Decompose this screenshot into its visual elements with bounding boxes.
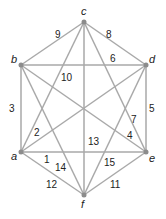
edge-d-f — [84, 65, 146, 195]
vertex-e — [144, 150, 149, 155]
weight-e-f: 11 — [110, 179, 121, 190]
graph-diagram: 1 2 3 4 5 6 7 8 9 10 11 12 13 14 15 a b … — [0, 0, 166, 219]
weight-c-d: 8 — [106, 29, 112, 40]
label-a: a — [11, 150, 17, 162]
edge-b-c — [21, 22, 84, 65]
weight-b-e: 4 — [127, 130, 133, 141]
label-c: c — [81, 5, 87, 17]
vertex-b — [19, 63, 24, 68]
weight-c-a: 10 — [61, 72, 73, 83]
weight-c-f: 13 — [88, 136, 100, 147]
edge-b-f — [21, 65, 84, 195]
weight-b-d: 6 — [110, 53, 116, 64]
edge-c-a — [21, 22, 84, 152]
weight-a-d: 2 — [34, 127, 40, 138]
label-d: d — [149, 53, 156, 65]
vertex-c — [82, 20, 87, 25]
label-e: e — [149, 152, 155, 164]
weight-b-c: 9 — [55, 29, 61, 40]
vertex-d — [144, 63, 149, 68]
edge-c-e — [84, 22, 146, 152]
vertex-a — [19, 150, 24, 155]
label-f: f — [81, 198, 85, 210]
weight-c-e: 7 — [131, 114, 137, 125]
weight-d-f: 15 — [104, 157, 116, 168]
vertex-f — [82, 193, 87, 198]
weight-a-e: 1 — [44, 154, 50, 165]
weight-d-e: 5 — [149, 103, 155, 114]
weight-b-f: 14 — [55, 162, 67, 173]
weight-a-f: 12 — [46, 179, 58, 190]
edges — [21, 22, 146, 195]
label-b: b — [11, 53, 17, 65]
weight-a-b: 3 — [9, 103, 15, 114]
